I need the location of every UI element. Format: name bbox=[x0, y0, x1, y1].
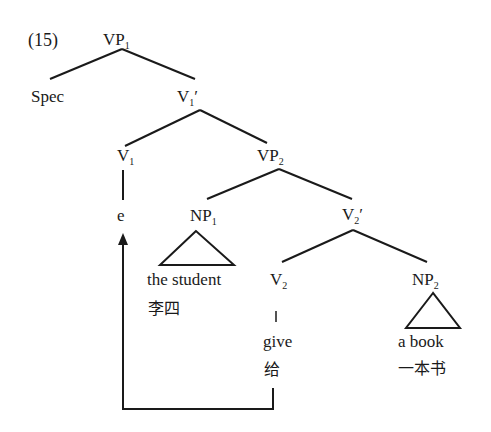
example-number: (15) bbox=[28, 31, 58, 49]
node-vp2: VP2 bbox=[257, 147, 284, 167]
leaf-v2-chinese: 给 bbox=[264, 362, 280, 378]
leaf-np2-english: a book bbox=[398, 333, 444, 350]
node-spec: Spec bbox=[31, 88, 64, 105]
leaf-np1-chinese: 李四 bbox=[148, 301, 180, 317]
node-trace-e: e bbox=[117, 207, 125, 224]
node-v2-bar: V2′ bbox=[342, 206, 363, 226]
node-vp1: VP1 bbox=[103, 31, 130, 51]
node-v1-bar: V1′ bbox=[177, 88, 198, 108]
leaf-np2-chinese: 一本书 bbox=[398, 361, 446, 377]
arrow-head bbox=[118, 233, 128, 245]
node-np1: NP1 bbox=[190, 207, 217, 227]
leaf-np1-english: the student bbox=[147, 271, 221, 288]
leaf-v2-english: give bbox=[263, 333, 292, 350]
node-v1: V1 bbox=[117, 147, 134, 167]
node-v2: V2 bbox=[270, 271, 287, 291]
node-np2: NP2 bbox=[412, 271, 439, 291]
